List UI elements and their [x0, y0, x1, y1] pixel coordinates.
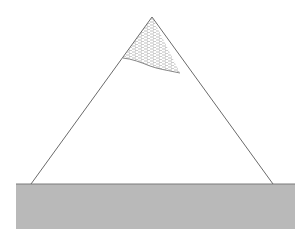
mountain-diagram	[0, 0, 304, 245]
ground-slab	[16, 184, 295, 229]
